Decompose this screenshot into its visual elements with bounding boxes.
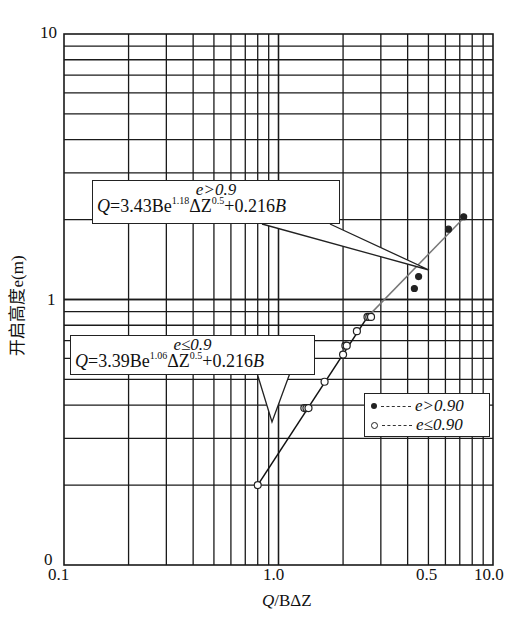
legend: e>0.90 e≤0.90 [364, 393, 490, 437]
chart-plot-area [0, 0, 518, 621]
dashed-line-icon [381, 406, 411, 407]
legend-item-high: e>0.90 [371, 396, 464, 416]
x-tick-1-0: 1.0 [263, 566, 284, 583]
legend-item-low: e≤0.90 [371, 415, 463, 435]
annotation-lower-equation: e≤0.9 Q=3.39Be1.06ΔZ0.5+0.216B [70, 335, 315, 375]
filled-circle-icon [371, 403, 377, 409]
y-tick-1: 1 [47, 291, 56, 308]
x-tick-0-1: 0.1 [48, 566, 69, 583]
open-circle-icon [371, 422, 378, 429]
x-tick-10-0: 10.0 [474, 566, 504, 583]
dashed-line-icon [382, 425, 412, 426]
grid-lines [64, 34, 493, 565]
x-tick-0-5: 0.5 [416, 566, 437, 583]
annotation-upper-equation: e>0.9 Q=3.43Be1.18ΔZ0.5+0.216B [92, 180, 340, 224]
y-tick-10: 10 [40, 24, 57, 41]
y-axis-label: 开启高度e(m) [4, 240, 26, 370]
x-axis-label: Q/BΔZ [262, 592, 312, 609]
